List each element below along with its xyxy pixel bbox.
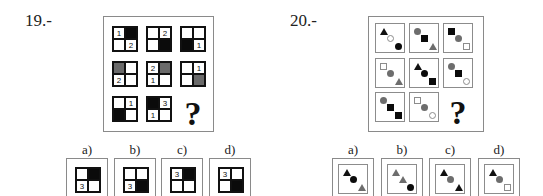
quadrant-number: 3 <box>163 99 167 108</box>
gray-circle-icon <box>387 70 394 77</box>
quadrant-number: 1 <box>117 29 121 38</box>
quadrant-bl: 3 <box>125 181 135 191</box>
white-square-icon <box>414 97 421 104</box>
quadrant-tl <box>148 98 158 108</box>
quadrant-tl: 3 <box>220 169 230 179</box>
matrix-cell <box>409 92 439 122</box>
gray-triangle-icon <box>392 169 400 176</box>
quadrant-bl: 1 <box>148 75 158 85</box>
option-cell <box>338 164 368 194</box>
gray-triangle-icon <box>399 176 407 183</box>
quadrant-number: 3 <box>223 170 227 179</box>
quadrant-tl <box>77 169 87 179</box>
gray-triangle-icon <box>358 184 366 191</box>
quadrant-bl: 2 <box>114 75 124 85</box>
answer-option-d[interactable]: 3 <box>209 158 251 196</box>
option-cell: 3 <box>170 167 196 193</box>
gray-circle-icon <box>496 176 503 183</box>
quadrant-number: 2 <box>151 64 155 73</box>
quadrant-br <box>137 181 147 191</box>
quadrant-tr: 1 <box>194 63 204 73</box>
option-cell <box>387 164 417 194</box>
quadrant-tl <box>182 63 192 73</box>
quadrant-bl: 1 <box>148 110 158 120</box>
quadrant-tl <box>125 169 135 179</box>
gray-circle-icon <box>421 104 428 111</box>
quadrant-bl <box>114 40 124 50</box>
gray-circle-icon <box>448 63 455 70</box>
answer-option-c[interactable]: 3 <box>161 158 203 196</box>
black-square-icon <box>387 104 394 111</box>
answer-option-a[interactable] <box>332 158 374 196</box>
matrix-cell: 1 <box>180 26 206 52</box>
quadrant-br <box>126 75 136 85</box>
quadrant-number: 3 <box>128 182 132 191</box>
answer-option-d[interactable] <box>478 158 520 196</box>
gray-triangle-icon <box>429 43 437 50</box>
quadrant-number: 1 <box>151 111 155 120</box>
gray-triangle-icon <box>395 78 403 85</box>
quadrant-tr <box>137 169 147 179</box>
matrix-cell <box>409 23 439 53</box>
option-cell: 3 <box>75 167 101 193</box>
quadrant-br: 1 <box>194 40 204 50</box>
black-square-icon <box>421 35 428 42</box>
question-number: 19.- <box>25 12 52 29</box>
quadrant-br <box>126 110 136 120</box>
option-label: b) <box>381 143 423 156</box>
quadrant-tr <box>89 169 99 179</box>
option-cell: 3 <box>123 167 149 193</box>
white-circle-icon <box>387 35 394 42</box>
quadrant-bl <box>220 181 230 191</box>
matrix-cell: 1 <box>112 96 138 122</box>
black-triangle-icon <box>343 169 351 176</box>
quadrant-tr <box>126 28 136 38</box>
matrix-cell: 12 <box>112 26 138 52</box>
answer-option-b[interactable] <box>381 158 423 196</box>
answer-option-a[interactable]: 3 <box>66 158 108 196</box>
gray-circle-icon <box>414 28 421 35</box>
quadrant-br <box>184 181 194 191</box>
quadrant-br: 2 <box>126 40 136 50</box>
black-triangle-icon <box>455 184 463 191</box>
quadrant-br <box>160 40 170 50</box>
quadrant-tl <box>114 63 124 73</box>
quadrant-bl: 3 <box>77 181 87 191</box>
quadrant-number: 1 <box>151 76 155 85</box>
quadrant-br <box>194 75 204 85</box>
black-square-icon <box>395 112 402 119</box>
quadrant-tr <box>194 28 204 38</box>
quadrant-number: 2 <box>129 41 133 50</box>
quadrant-number: 2 <box>117 76 121 85</box>
black-circle-icon <box>407 184 414 191</box>
option-label: a) <box>66 143 108 156</box>
quadrant-number: 3 <box>175 170 179 179</box>
matrix-cell: 31 <box>146 96 172 122</box>
option-label: a) <box>332 143 374 156</box>
gray-circle-icon <box>455 35 462 42</box>
quadrant-number: 1 <box>129 99 133 108</box>
quadrant-tr <box>232 169 242 179</box>
quadrant-br <box>160 75 170 85</box>
matrix-cell: 21 <box>146 61 172 87</box>
gray-circle-icon <box>447 176 454 183</box>
black-circle-icon <box>395 43 402 50</box>
quadrant-number: 3 <box>80 182 84 191</box>
answer-option-b[interactable]: 3 <box>114 158 156 196</box>
matrix-cell: 2 <box>112 61 138 87</box>
quadrant-tl: 1 <box>114 28 124 38</box>
white-square-icon <box>504 184 511 191</box>
white-square-icon <box>380 63 387 70</box>
black-square-icon <box>448 28 455 35</box>
quadrant-tr: 2 <box>160 28 170 38</box>
quadrant-number: 1 <box>197 41 201 50</box>
black-circle-icon <box>421 70 428 77</box>
option-cell <box>484 164 514 194</box>
black-triangle-icon <box>414 63 422 70</box>
quadrant-bl <box>114 110 124 120</box>
quadrant-number: 2 <box>163 29 167 38</box>
quadrant-bl <box>148 40 158 50</box>
option-cell <box>435 164 465 194</box>
black-circle-icon <box>350 176 357 183</box>
answer-option-c[interactable] <box>429 158 471 196</box>
